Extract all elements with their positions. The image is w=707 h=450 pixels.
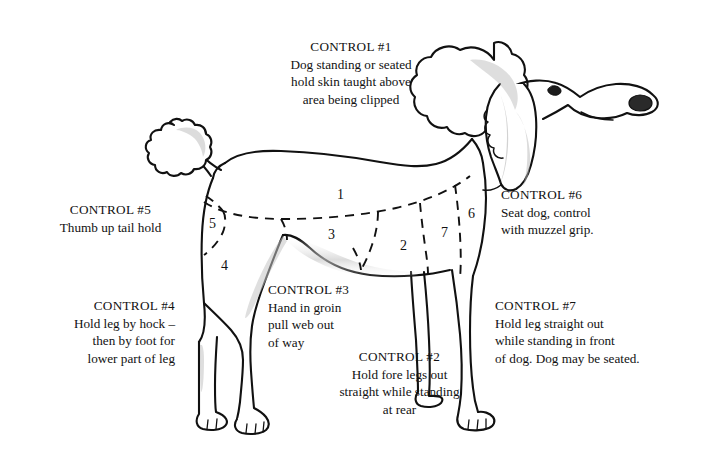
callout-control-7-title: CONTROL #7 (495, 297, 700, 315)
boundary-7-6 (455, 185, 461, 278)
callout-control-6: CONTROL #6 Seat dog, control with muzzel… (501, 186, 701, 239)
callout-control-1-title: CONTROL #1 (256, 38, 446, 56)
boundary-2-left (361, 212, 378, 270)
callout-control-3: CONTROL #3 Hand in groin pull web out of… (268, 281, 388, 351)
callout-control-4: CONTROL #4 Hold leg by hock – then by fo… (10, 297, 175, 367)
callout-control-3-line-2: pull web out (268, 316, 388, 334)
hind-leg-off-front (215, 337, 217, 412)
eye (548, 86, 561, 95)
hind-foot-off (197, 412, 227, 430)
callout-control-1-line-1: Dog standing or seated (256, 56, 446, 74)
callout-control-5: CONTROL #5 Thumb up tail hold (28, 201, 193, 236)
hind-leg-near-back (204, 303, 243, 419)
callout-control-4-line-2: then by foot for (10, 332, 175, 350)
topline-back (225, 139, 472, 166)
region-number-1: 1 (337, 187, 344, 203)
diagram-root: 1 2 3 4 5 6 7 CONTROL #1 Dog standing or… (0, 0, 707, 450)
callout-control-7-line-1: Hold leg straight out (495, 315, 700, 333)
callout-control-3-line-1: Hand in groin (268, 299, 388, 317)
callout-control-1: CONTROL #1 Dog standing or seated hold s… (256, 38, 446, 108)
nose (629, 95, 652, 111)
callout-control-5-title: CONTROL #5 (28, 201, 193, 219)
callout-control-6-line-1: Seat dog, control (501, 204, 701, 222)
callout-control-3-title: CONTROL #3 (268, 281, 388, 299)
region-number-5: 5 (209, 216, 216, 232)
callout-control-2-title: CONTROL #2 (312, 348, 487, 366)
callout-control-6-title: CONTROL #6 (501, 186, 701, 204)
callout-control-7-line-3: of dog. Dog may be seated. (495, 350, 700, 368)
region-number-3: 3 (328, 227, 335, 243)
callout-control-4-line-1: Hold leg by hock – (10, 315, 175, 333)
boundary-2-right (420, 203, 428, 274)
region-number-7: 7 (441, 225, 448, 241)
region-number-4: 4 (221, 258, 228, 274)
region-number-6: 6 (468, 206, 475, 222)
callout-control-1-line-3: area being clipped (256, 91, 446, 109)
callout-control-7: CONTROL #7 Hold leg straight out while s… (495, 297, 700, 367)
callout-control-5-line-1: Thumb up tail hold (28, 219, 193, 237)
callout-control-2-line-3: at rear (312, 401, 487, 419)
callout-control-2: CONTROL #2 Hold fore legs out straight w… (312, 348, 487, 418)
boundary-5-left (206, 196, 223, 211)
callout-control-1-line-2: hold skin taught above (256, 73, 446, 91)
neck-front-line (472, 139, 483, 163)
callout-control-6-line-2: with muzzel grip. (501, 221, 701, 239)
callout-control-7-line-2: while standing in front (495, 332, 700, 350)
callout-control-4-line-3: lower part of leg (10, 350, 175, 368)
callout-control-2-line-2: straight while standing (312, 383, 487, 401)
callout-control-2-line-1: Hold fore legs out (312, 366, 487, 384)
callout-control-4-title: CONTROL #4 (10, 297, 175, 315)
region-number-2: 2 (400, 238, 407, 254)
